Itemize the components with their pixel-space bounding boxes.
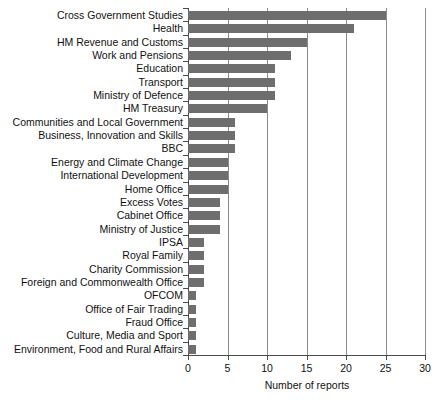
y-axis-category-labels: Cross Government StudiesHealthHM Revenue… — [0, 8, 183, 355]
bar — [188, 305, 196, 314]
x-axis-tick-label: 30 — [410, 362, 440, 374]
bar — [188, 345, 196, 354]
bar — [188, 24, 354, 33]
x-axis-tick-label: 25 — [371, 362, 401, 374]
bar — [188, 318, 196, 327]
x-axis-tick — [346, 355, 347, 360]
bar — [188, 291, 196, 300]
bar — [188, 198, 220, 207]
x-axis-tick-label: 0 — [173, 362, 203, 374]
bar — [188, 238, 204, 247]
bar — [188, 104, 267, 113]
bar — [188, 64, 275, 73]
bar — [188, 131, 235, 140]
bar — [188, 265, 204, 274]
gridline-30 — [425, 8, 426, 355]
x-axis-tick — [267, 355, 268, 360]
bar — [188, 251, 204, 260]
x-axis-tick — [188, 355, 189, 360]
bar — [188, 331, 196, 340]
bar — [188, 118, 235, 127]
x-axis-tick — [228, 355, 229, 360]
x-axis-tick-label: 20 — [331, 362, 361, 374]
x-axis-tick-label: 5 — [213, 362, 243, 374]
bar — [188, 171, 228, 180]
x-axis-tick — [386, 355, 387, 360]
x-axis-tick-label: 10 — [252, 362, 282, 374]
bar — [188, 91, 275, 100]
bar — [188, 11, 386, 20]
bar — [188, 158, 228, 167]
y-axis-label: Environment, Food and Rural Affairs — [0, 342, 183, 357]
bar — [188, 185, 228, 194]
bar — [188, 78, 275, 87]
x-axis-title: Number of reports — [188, 379, 426, 391]
bar — [188, 225, 220, 234]
bar — [188, 51, 291, 60]
bar-series — [188, 8, 425, 355]
plot-area — [188, 8, 425, 355]
x-axis-tick — [307, 355, 308, 360]
x-axis-tick — [425, 355, 426, 360]
bar — [188, 278, 204, 287]
bar — [188, 38, 307, 47]
bar — [188, 144, 235, 153]
bar — [188, 211, 220, 220]
x-axis-tick-label: 15 — [292, 362, 322, 374]
bar-chart: Cross Government StudiesHealthHM Revenue… — [0, 0, 444, 408]
